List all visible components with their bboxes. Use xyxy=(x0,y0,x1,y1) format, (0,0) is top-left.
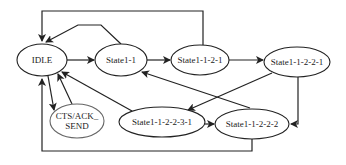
nodes: IDLEState1-1State1-1-2-1State1-1-2-2-1CT… xyxy=(17,44,330,139)
state-label: CTS/ACK_ xyxy=(56,111,99,121)
diagram-svg: IDLEState1-1State1-1-2-1State1-1-2-2-1CT… xyxy=(0,0,346,165)
state-label: SEND xyxy=(65,121,89,131)
edge-idle-to-cts xyxy=(48,76,54,110)
state-diagram: IDLEState1-1State1-1-2-1State1-1-2-2-1CT… xyxy=(0,0,346,165)
state-node-s11222: State1-1-2-2-2 xyxy=(215,109,289,139)
edge-state1-1-to-idle xyxy=(46,25,121,44)
state-label: State1-1-2-2-3-1 xyxy=(132,117,192,127)
state-label: State1-1-2-2-2 xyxy=(226,119,278,129)
state-label: State1-1 xyxy=(106,55,136,65)
state-node-idle: IDLE xyxy=(17,44,67,76)
state-node-s11: State1-1 xyxy=(95,44,147,76)
edge-state1-1-2-2-1-to-state1-1-2-2-2 xyxy=(291,77,298,124)
state-node-s11221: State1-1-2-2-1 xyxy=(264,47,330,77)
state-node-cts: CTS/ACK_SEND xyxy=(50,104,104,138)
state-label: IDLE xyxy=(32,55,53,65)
edge-state1-1-2-1-to-idle xyxy=(42,11,203,45)
state-node-s1121: State1-1-2-1 xyxy=(171,45,229,75)
state-label: State1-1-2-1 xyxy=(178,55,223,65)
state-label: State1-1-2-2-1 xyxy=(271,57,323,67)
state-node-s112231: State1-1-2-2-3-1 xyxy=(119,107,205,137)
edge-cts-to-idle xyxy=(58,74,72,104)
